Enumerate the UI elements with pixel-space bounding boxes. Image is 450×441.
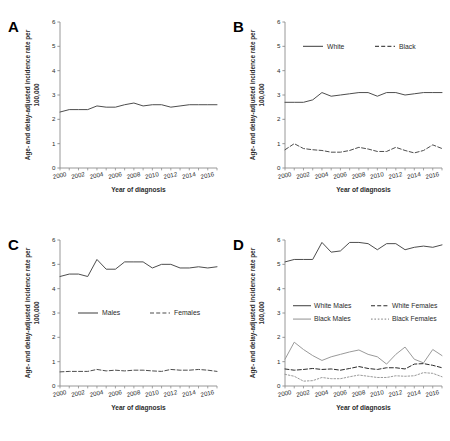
svg-text:1: 1 xyxy=(52,358,56,365)
svg-text:2006: 2006 xyxy=(107,388,122,398)
svg-text:0: 0 xyxy=(277,382,281,389)
svg-text:2014: 2014 xyxy=(406,170,421,180)
svg-text:2: 2 xyxy=(52,115,56,122)
svg-text:2006: 2006 xyxy=(332,388,347,398)
panel-d: D 01234562000200220042006200820102012201… xyxy=(225,218,450,438)
svg-text:2004: 2004 xyxy=(89,170,104,180)
svg-text:2000: 2000 xyxy=(277,388,292,398)
figure-caption xyxy=(0,432,450,441)
svg-text:2: 2 xyxy=(277,115,281,122)
svg-text:2002: 2002 xyxy=(295,388,310,398)
svg-text:1: 1 xyxy=(277,140,281,147)
svg-text:2010: 2010 xyxy=(369,388,384,398)
svg-text:2: 2 xyxy=(277,333,281,340)
svg-text:2008: 2008 xyxy=(126,388,141,398)
svg-text:4: 4 xyxy=(52,285,56,292)
svg-text:White Females: White Females xyxy=(392,302,438,309)
svg-text:5: 5 xyxy=(277,42,281,49)
svg-text:2004: 2004 xyxy=(314,388,329,398)
svg-text:4: 4 xyxy=(277,285,281,292)
svg-text:Age- and delay-adjusted incide: Age- and delay-adjusted incidence rate p… xyxy=(249,29,257,160)
panel-a: A 01234562000200220042006200820102012201… xyxy=(0,0,225,220)
svg-text:White: White xyxy=(327,43,345,50)
panel-b: B 01234562000200220042006200820102012201… xyxy=(225,0,450,220)
svg-text:Females: Females xyxy=(174,309,201,316)
svg-text:5: 5 xyxy=(52,42,56,49)
svg-text:2012: 2012 xyxy=(388,170,403,180)
svg-text:6: 6 xyxy=(52,18,56,25)
svg-text:White Males: White Males xyxy=(314,302,352,309)
svg-text:Black Males: Black Males xyxy=(314,315,351,322)
svg-text:3: 3 xyxy=(52,91,56,98)
panel-c-plot: 0123456200020022004200620082010201220142… xyxy=(0,218,225,438)
svg-text:Age- and delay-adjusted incide: Age- and delay-adjusted incidence rate p… xyxy=(24,247,32,378)
panel-a-plot: 0123456200020022004200620082010201220142… xyxy=(0,0,225,220)
panel-c: C 01234562000200220042006200820102012201… xyxy=(0,218,225,438)
svg-text:2010: 2010 xyxy=(144,388,159,398)
svg-text:Age- and delay-adjusted incide: Age- and delay-adjusted incidence rate p… xyxy=(24,29,32,160)
svg-text:2010: 2010 xyxy=(144,170,159,180)
svg-text:Age- and delay-adjusted incide: Age- and delay-adjusted incidence rate p… xyxy=(249,247,257,378)
svg-text:2014: 2014 xyxy=(181,388,196,398)
svg-text:2010: 2010 xyxy=(369,170,384,180)
svg-text:Year of diagnosis: Year of diagnosis xyxy=(111,404,166,412)
svg-text:Year of diagnosis: Year of diagnosis xyxy=(336,186,391,194)
svg-text:5: 5 xyxy=(277,260,281,267)
svg-text:2014: 2014 xyxy=(181,170,196,180)
svg-text:2006: 2006 xyxy=(332,170,347,180)
svg-text:2000: 2000 xyxy=(52,388,67,398)
svg-text:2008: 2008 xyxy=(351,388,366,398)
svg-text:2016: 2016 xyxy=(425,170,440,180)
svg-text:1: 1 xyxy=(277,358,281,365)
svg-text:100,000: 100,000 xyxy=(33,83,41,107)
svg-text:2012: 2012 xyxy=(163,388,178,398)
figure-container: A 01234562000200220042006200820102012201… xyxy=(0,0,450,441)
panel-d-plot: 0123456200020022004200620082010201220142… xyxy=(225,218,450,438)
svg-text:3: 3 xyxy=(52,309,56,316)
svg-text:2016: 2016 xyxy=(425,388,440,398)
svg-text:5: 5 xyxy=(52,260,56,267)
svg-text:1: 1 xyxy=(52,140,56,147)
svg-text:0: 0 xyxy=(277,164,281,171)
svg-text:Year of diagnosis: Year of diagnosis xyxy=(111,186,166,194)
svg-text:2002: 2002 xyxy=(70,170,85,180)
svg-text:Year of diagnosis: Year of diagnosis xyxy=(336,404,391,412)
svg-text:2012: 2012 xyxy=(163,170,178,180)
svg-text:0: 0 xyxy=(52,382,56,389)
svg-text:2006: 2006 xyxy=(107,170,122,180)
svg-text:4: 4 xyxy=(277,67,281,74)
svg-text:2: 2 xyxy=(52,333,56,340)
svg-text:2012: 2012 xyxy=(388,388,403,398)
svg-text:3: 3 xyxy=(277,309,281,316)
svg-text:2004: 2004 xyxy=(89,388,104,398)
svg-text:2008: 2008 xyxy=(126,170,141,180)
svg-text:0: 0 xyxy=(52,164,56,171)
svg-text:2000: 2000 xyxy=(52,170,67,180)
svg-text:100,000: 100,000 xyxy=(258,301,266,325)
panel-b-plot: 0123456200020022004200620082010201220142… xyxy=(225,0,450,220)
svg-text:2008: 2008 xyxy=(351,170,366,180)
svg-text:100,000: 100,000 xyxy=(258,83,266,107)
svg-text:2016: 2016 xyxy=(200,388,215,398)
svg-text:Black Females: Black Females xyxy=(392,315,437,322)
svg-text:Black: Black xyxy=(399,43,416,50)
svg-text:2016: 2016 xyxy=(200,170,215,180)
svg-text:6: 6 xyxy=(52,236,56,243)
svg-text:6: 6 xyxy=(277,236,281,243)
svg-text:2014: 2014 xyxy=(406,388,421,398)
svg-text:2002: 2002 xyxy=(295,170,310,180)
svg-text:6: 6 xyxy=(277,18,281,25)
svg-text:Males: Males xyxy=(102,309,121,316)
svg-text:3: 3 xyxy=(277,91,281,98)
svg-text:2002: 2002 xyxy=(70,388,85,398)
svg-text:2000: 2000 xyxy=(277,170,292,180)
svg-text:4: 4 xyxy=(52,67,56,74)
svg-text:2004: 2004 xyxy=(314,170,329,180)
svg-text:100,000: 100,000 xyxy=(33,301,41,325)
